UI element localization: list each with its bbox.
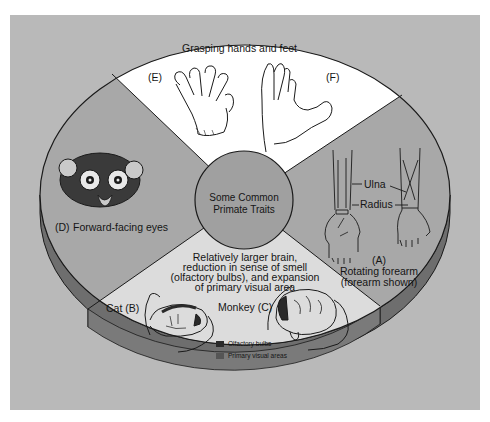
center-title-line-1: Some Common	[206, 192, 282, 203]
legend-visual: Primary visual areas	[216, 352, 287, 359]
primate-traits-diagram: Grasping hands and feet (E) (F) Some Com…	[0, 0, 490, 422]
visual-swatch	[216, 353, 224, 359]
center-title-line-2: Primate Traits	[206, 204, 282, 215]
legend-label-visual: Primary visual areas	[228, 352, 287, 359]
legend-olfactory: Olfactory bulbs	[216, 340, 271, 347]
caption-forward-facing-eyes: Forward-facing eyes	[73, 222, 168, 233]
bone-label-ulna: Ulna	[364, 179, 386, 190]
animal-label-cat: Cat (B)	[106, 303, 139, 314]
animal-label-monkey: Monkey (C)	[218, 302, 272, 313]
label-d: (D)	[55, 222, 70, 233]
legend-label-olfactory: Olfactory bulbs	[228, 340, 271, 347]
olfactory-swatch	[216, 341, 224, 347]
caption-rotating-forearm-2: (forearm shown)	[338, 277, 420, 288]
bone-label-radius: Radius	[360, 199, 393, 210]
label-f: (F)	[326, 72, 339, 83]
section-heading-grasping: Grasping hands and feet	[182, 43, 297, 54]
label-e: (E)	[148, 72, 162, 83]
caption-brain-4: of primary visual area	[160, 282, 330, 293]
